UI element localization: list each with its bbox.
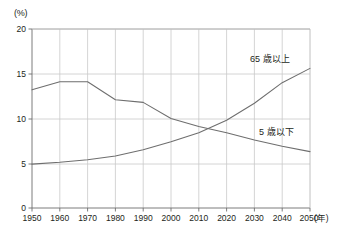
x-axis-ticks (32, 208, 310, 212)
x-tick-label-1980: 1980 (100, 214, 130, 223)
x-tick-label-2010: 2010 (184, 214, 214, 223)
y-axis-ticks (29, 29, 33, 208)
y-tick-label-10: 10 (4, 115, 26, 124)
x-tick-label-2040: 2040 (267, 214, 297, 223)
x-tick-label-1970: 1970 (73, 214, 103, 223)
x-tick-label-1960: 1960 (45, 214, 75, 223)
chart-container: (%) (0, 0, 345, 238)
x-tick-label-1990: 1990 (128, 214, 158, 223)
x-tick-label-2000: 2000 (156, 214, 186, 223)
x-tick-label-2020: 2020 (212, 214, 242, 223)
x-axis-unit-label: (年) (314, 214, 329, 223)
x-tick-label-2030: 2030 (239, 214, 269, 223)
x-tick-label-1950: 1950 (17, 214, 47, 223)
series-annotation-65-and-over: 65 歳以上 (250, 54, 290, 64)
y-tick-label-20: 20 (4, 25, 26, 34)
y-tick-label-0: 0 (4, 204, 26, 213)
y-tick-label-5: 5 (4, 160, 26, 169)
series-annotation-5-and-under: 5 歳以下 (259, 127, 294, 137)
y-tick-label-15: 15 (4, 70, 26, 79)
chart-plot-area (0, 0, 345, 238)
